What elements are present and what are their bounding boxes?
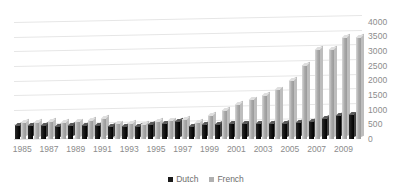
- legend-item-french[interactable]: French: [209, 175, 243, 184]
- bar-french: [115, 124, 120, 139]
- bar-group: [82, 22, 95, 139]
- bar-french: [289, 81, 294, 140]
- bar-group: [95, 22, 108, 139]
- bar-face: [189, 126, 194, 139]
- bar-dutch: [108, 126, 113, 139]
- x-axis-tick-label: 2005: [277, 145, 303, 154]
- bar-french: [21, 123, 26, 139]
- bar-face: [82, 125, 87, 139]
- y-axis-tick-label: 3000: [368, 47, 408, 56]
- bar-dutch: [122, 126, 127, 139]
- bar-dutch: [202, 125, 207, 139]
- bar-face: [182, 119, 187, 139]
- x-axis-tick-label: 1989: [63, 145, 89, 154]
- bar-group: [202, 22, 215, 139]
- y-axis: 05001000150020002500300035004000: [368, 0, 412, 195]
- x-axis-tick-label: 2009: [330, 145, 356, 154]
- bar-french: [141, 124, 146, 139]
- bar-face: [296, 123, 301, 139]
- bar-group: [28, 22, 41, 139]
- bar-dutch: [322, 119, 327, 139]
- bar-french: [168, 121, 173, 139]
- bar-group: [256, 22, 269, 139]
- bar-group: [242, 22, 255, 139]
- bar-group: [269, 22, 282, 139]
- bar-dutch: [309, 121, 314, 139]
- bar-dutch: [15, 125, 20, 139]
- bar-french: [275, 90, 280, 139]
- bar-dutch: [95, 125, 100, 139]
- bar-group: [282, 22, 295, 139]
- bar-french: [195, 123, 200, 139]
- bar-group: [296, 22, 309, 139]
- y-axis-tick-label: 0: [368, 135, 408, 144]
- bar-group: [322, 22, 335, 139]
- bar-french: [342, 38, 347, 139]
- y-axis-tick-label: 1000: [368, 106, 408, 115]
- x-axis-tick-label: 2001: [223, 145, 249, 154]
- x-axis-tick-label: 1997: [170, 145, 196, 154]
- bar-french: [128, 123, 133, 139]
- bar-dutch: [349, 115, 354, 139]
- bar-french: [315, 50, 320, 140]
- bar-face: [122, 126, 127, 139]
- bar-french: [302, 65, 307, 139]
- bar-dutch: [282, 123, 287, 139]
- bar-group: [148, 22, 161, 139]
- bar-french: [88, 120, 93, 139]
- bar-french: [182, 119, 187, 139]
- x-axis-tick-label: 1985: [9, 145, 35, 154]
- bar-group: [215, 22, 228, 139]
- bar-dutch: [148, 124, 153, 139]
- bar-dutch: [135, 126, 140, 139]
- bar-group: [135, 22, 148, 139]
- bar-dutch: [336, 116, 341, 139]
- bar-group: [349, 22, 362, 139]
- bar-group: [68, 22, 81, 139]
- bar-face: [55, 126, 60, 139]
- bar-dutch: [162, 124, 167, 139]
- bar-french: [262, 95, 267, 139]
- legend-item-dutch[interactable]: Dutch: [168, 175, 198, 184]
- bar-face: [289, 81, 294, 140]
- bar-dutch: [296, 123, 301, 139]
- y-axis-tick-label: 1500: [368, 91, 408, 100]
- y-axis-tick-label: 500: [368, 120, 408, 129]
- bar-face: [229, 124, 234, 139]
- bar-dutch: [28, 126, 33, 139]
- bar-dutch: [215, 124, 220, 139]
- bar-dutch: [68, 126, 73, 139]
- bar-group: [15, 22, 28, 139]
- bar-french: [101, 119, 106, 139]
- bar-dutch: [242, 124, 247, 139]
- legend-label: French: [217, 175, 243, 184]
- x-axis-tick-label: 1999: [197, 145, 223, 154]
- legend-label: Dutch: [176, 175, 198, 184]
- x-axis-tick-label: 2003: [250, 145, 276, 154]
- bar-french: [34, 122, 39, 139]
- bar-dutch: [229, 124, 234, 139]
- bar-chart: 05001000150020002500300035004000 1985198…: [0, 0, 412, 195]
- bar-dutch: [55, 126, 60, 139]
- bar-dutch: [175, 121, 180, 139]
- bar-group: [108, 22, 121, 139]
- bar-dutch: [189, 126, 194, 139]
- bar-group: [189, 22, 202, 139]
- x-axis: 1985198719891991199319951997199920012003…: [14, 145, 362, 159]
- x-axis-tick-label: 1995: [143, 145, 169, 154]
- x-axis-tick-label: 1987: [36, 145, 62, 154]
- y-axis-tick-label: 2500: [368, 62, 408, 71]
- bar-face: [115, 124, 120, 139]
- bar-group: [55, 22, 68, 139]
- bar-face: [48, 121, 53, 139]
- bar-french: [249, 100, 254, 139]
- bar-french: [208, 116, 213, 139]
- bar-group: [229, 22, 242, 139]
- bar-french: [329, 49, 334, 139]
- plot-area: [14, 22, 362, 139]
- bar-french: [155, 121, 160, 139]
- bar-face: [356, 37, 361, 139]
- bar-dutch: [256, 124, 261, 139]
- bar-french: [235, 105, 240, 140]
- bar-group: [41, 22, 54, 139]
